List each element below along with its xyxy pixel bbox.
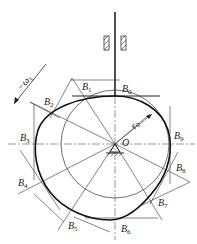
point-b9: B9 [174,130,184,143]
point-b3: B3 [20,132,30,145]
guide-left [104,36,109,50]
point-b1: B1 [82,81,92,94]
center-label: O [122,137,129,148]
point-b2: B2 [44,96,54,109]
point-b0: B0 [122,83,132,96]
point-b6: B6 [121,223,131,236]
r0-label: r0 [128,118,143,132]
point-b8: B8 [176,162,186,175]
cam-diagram: −ω1 r0 O B0 B1 B2 B3 B4 B5 B6 B7 B8 B9 [0,0,197,244]
guide-right [121,36,126,50]
point-b5: B5 [68,220,78,233]
point-b7: B7 [158,197,168,210]
point-b4: B4 [18,177,28,190]
